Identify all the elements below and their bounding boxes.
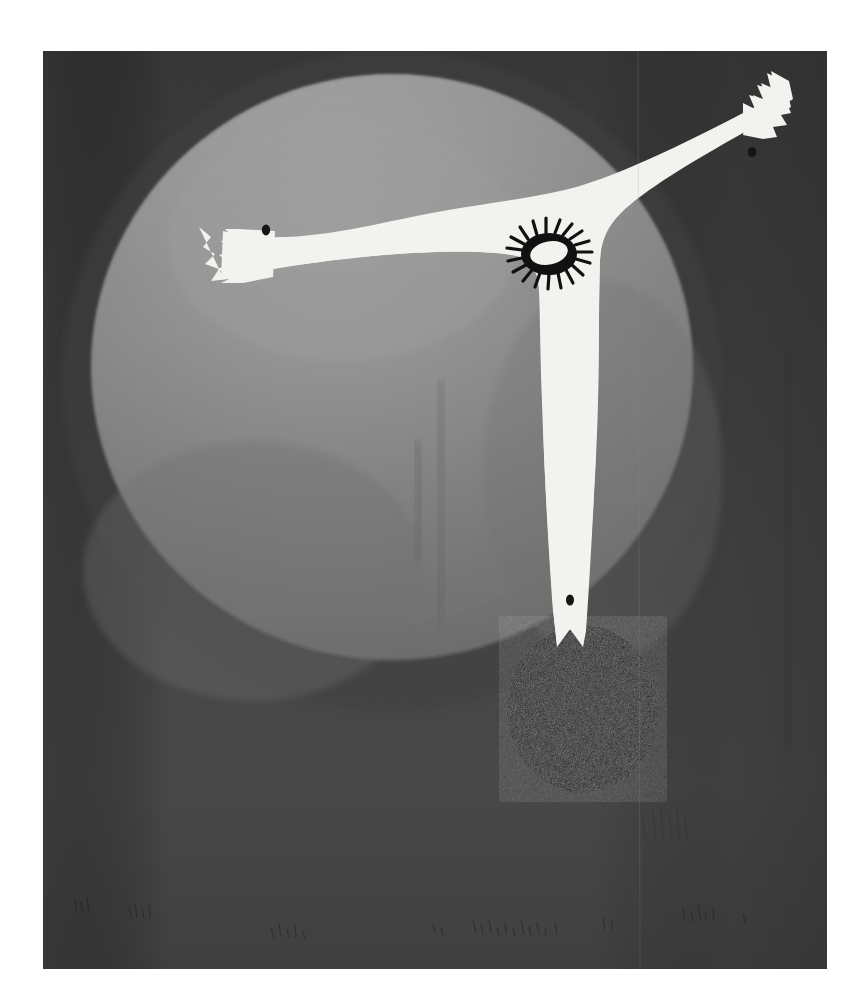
painting-vector-surface: [43, 51, 827, 969]
artwork-stage: [0, 0, 868, 1008]
canvas-weave-overlay: [43, 51, 827, 969]
painting-canvas: [43, 51, 827, 969]
